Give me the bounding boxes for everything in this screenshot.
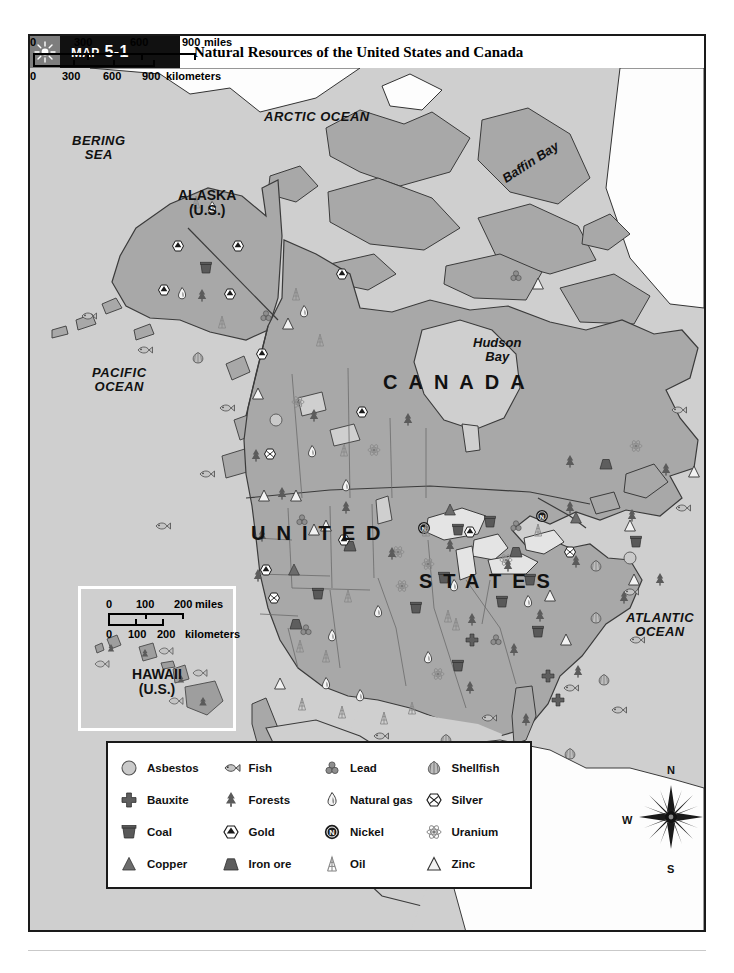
legend-item-uranium[interactable]: Uranium (423, 821, 525, 843)
tick-k0 (33, 60, 35, 67)
inset-km-unit: kilometers (185, 628, 240, 640)
legend-item-nickel[interactable]: N Nickel (321, 821, 423, 843)
legend-label-coal: Coal (147, 826, 172, 838)
legend-label-forests: Forests (249, 794, 291, 806)
legend-item-bauxite[interactable]: Bauxite (118, 789, 220, 811)
shellfish-scallop-icon (423, 757, 445, 779)
scale-km-600: 600 (103, 70, 121, 82)
scale-miles-900: 900 (182, 36, 200, 48)
page-title: Natural Resources of the United States a… (194, 44, 523, 61)
iron-ore-trapezoid-icon (220, 853, 242, 875)
tick-m0 (33, 53, 35, 60)
inset-tick-k100 (135, 619, 137, 625)
inset-km-100: 100 (128, 628, 146, 640)
scale-km-axis (33, 65, 155, 67)
legend-label-oil: Oil (350, 858, 365, 870)
scale-miles-600: 600 (130, 36, 148, 48)
label-hawaii: HAWAII (U.S.) (81, 667, 233, 696)
inset-tick-m100 (145, 613, 147, 619)
legend-item-lead[interactable]: Lead (321, 757, 423, 779)
bauxite-cross-icon (118, 789, 140, 811)
inset-miles-unit: miles (195, 598, 223, 610)
inset-miles-100: 100 (136, 598, 154, 610)
coal-bucket-icon (118, 821, 140, 843)
scale-km-0: 0 (30, 70, 36, 82)
inset-miles-200: 200 (174, 598, 192, 610)
legend-item-asbestos[interactable]: Asbestos (118, 757, 220, 779)
nickel-n-circle-icon: N (321, 821, 343, 843)
legend-item-coal[interactable]: Coal (118, 821, 220, 843)
natural-gas-flame-icon (321, 789, 343, 811)
scale-km-unit: kilometers (166, 70, 221, 82)
compass-rose: N S W E (622, 764, 706, 876)
oil-derrick-icon (321, 853, 343, 875)
scale-miles-unit: miles (204, 36, 232, 48)
map-title-container: Natural Resources of the United States a… (180, 36, 704, 68)
tick-m600 (141, 53, 143, 60)
inset-km-0: 0 (106, 628, 112, 640)
legend-label-copper: Copper (147, 858, 187, 870)
copper-triangle-icon (118, 853, 140, 875)
legend-item-silver[interactable]: Silver (423, 789, 525, 811)
tick-k600 (113, 60, 115, 67)
legend-item-fish[interactable]: Fish (220, 757, 322, 779)
page-footer-rule (28, 950, 706, 954)
inset-tick-m200 (182, 613, 184, 619)
scale-bar-inset: 0 100 200 miles 0 100 200 kilometers (106, 598, 226, 644)
legend-label-uranium: Uranium (452, 826, 499, 838)
scale-miles-axis (33, 53, 196, 55)
compass-label-north: N (667, 764, 675, 776)
legend-label-iron-ore: Iron ore (249, 858, 292, 870)
scale-miles-0: 0 (30, 36, 36, 48)
map-legend: Asbestos Fish (106, 741, 532, 889)
legend-item-iron-ore[interactable]: Iron ore (220, 853, 322, 875)
fish-icon (220, 757, 242, 779)
gold-hexagon-icon (220, 821, 242, 843)
scale-km-900: 900 (142, 70, 160, 82)
zinc-open-triangle-icon (423, 853, 445, 875)
legend-label-lead: Lead (350, 762, 377, 774)
forests-tree-icon (220, 789, 242, 811)
compass-label-south: S (667, 863, 674, 875)
legend-label-silver: Silver (452, 794, 483, 806)
legend-label-natural-gas: Natural gas (350, 794, 413, 806)
legend-item-oil[interactable]: Oil (321, 853, 423, 875)
legend-item-copper[interactable]: Copper (118, 853, 220, 875)
legend-label-bauxite: Bauxite (147, 794, 189, 806)
tick-m900 (194, 53, 196, 60)
legend-item-natural-gas[interactable]: Natural gas (321, 789, 423, 811)
compass-star-icon (635, 781, 706, 853)
silver-hexagon-icon (423, 789, 445, 811)
legend-label-nickel: Nickel (350, 826, 384, 838)
inset-miles-0: 0 (106, 598, 112, 610)
legend-label-shellfish: Shellfish (452, 762, 500, 774)
legend-label-asbestos: Asbestos (147, 762, 199, 774)
svg-text:N: N (329, 828, 334, 837)
tick-k300 (73, 60, 75, 67)
legend-grid: Asbestos Fish (118, 752, 524, 880)
compass-label-west: W (622, 814, 632, 826)
scale-km-300: 300 (62, 70, 80, 82)
legend-item-shellfish[interactable]: Shellfish (423, 757, 525, 779)
inset-km-200: 200 (157, 628, 175, 640)
hawaii-line2: (U.S.) (139, 681, 176, 697)
hawaii-line1: HAWAII (132, 666, 182, 682)
map-frame: MAP 5-1 Natural Resources of the United … (28, 34, 706, 932)
scale-miles-300: 300 (74, 36, 92, 48)
legend-item-zinc[interactable]: Zinc (423, 853, 525, 875)
hawaii-inset-map: 0 100 200 miles 0 100 200 kilometers HAW… (78, 586, 236, 731)
legend-item-gold[interactable]: Gold (220, 821, 322, 843)
legend-item-forests[interactable]: Forests (220, 789, 322, 811)
legend-label-gold: Gold (249, 826, 275, 838)
inset-tick-k200 (162, 619, 164, 625)
map-number-badge: MAP 5-1 (30, 36, 180, 68)
tick-k900 (153, 60, 155, 67)
legend-label-zinc: Zinc (452, 858, 476, 870)
tick-m300 (87, 53, 89, 60)
uranium-atom-icon (423, 821, 445, 843)
inset-tick-k0 (108, 619, 110, 625)
asbestos-circle-icon (118, 757, 140, 779)
legend-label-fish: Fish (249, 762, 273, 774)
lead-three-circles-icon (321, 757, 343, 779)
